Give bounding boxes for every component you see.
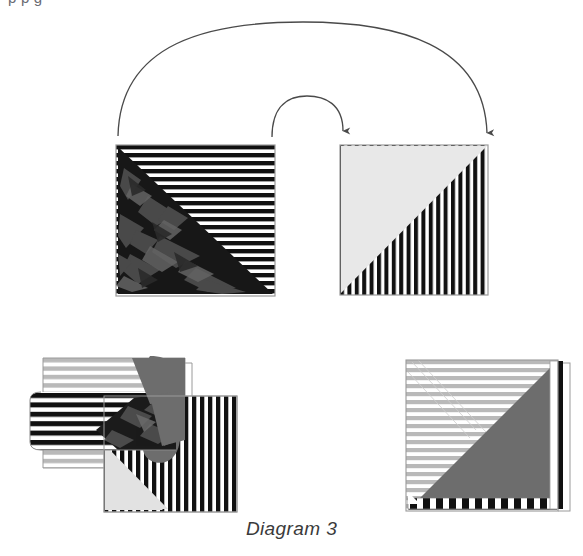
diagram-stage: p p g [0,0,583,556]
bottom-checkered-edge-strip [408,498,556,509]
diagram-illustration [0,0,583,556]
target-sheet-front [340,145,488,295]
outer-flip-arrow [118,22,487,136]
peeling-sheet-answer-a [30,356,237,512]
inner-flip-arrow [272,96,343,137]
figure-caption: Diagram 3 [0,518,583,540]
flip-arrows [118,22,487,137]
right-edge-black-sliver [558,361,563,509]
right-edge-white-sliver [550,361,558,509]
folded-sheet-answer-b [406,360,570,512]
source-sheet-front [116,145,275,296]
